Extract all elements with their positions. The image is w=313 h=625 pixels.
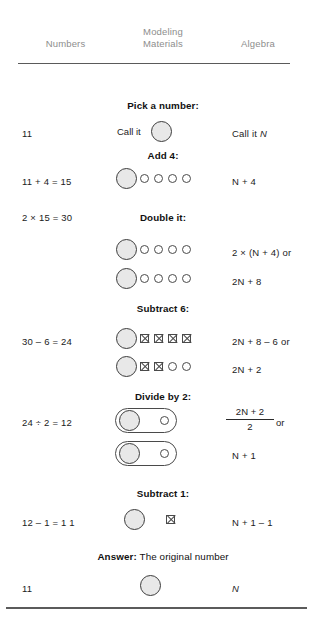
step-heading-pick-a-number: Pick a number: [68,100,258,111]
column-header-algebra: Algebra [213,38,303,50]
numbers-cell-add4: 11 + 4 = 15 [22,176,127,187]
algebra-prefix-call-it: Call it [232,128,257,139]
model-cell-subtract6-b [115,355,215,381]
numbers-cell-subtract1: 12 – 1 = 1 1 [22,517,127,528]
fraction-numerator: 2N + 2 [226,406,274,417]
fraction-bar [226,419,274,420]
model-disc-large [151,121,172,142]
answer-label: Answer: [97,551,136,562]
model-disc-large [116,356,137,377]
model-cell-answer [115,574,215,600]
numbers-cell-pick: 11 [22,128,127,139]
step-heading-subtract-6: Subtract 6: [68,303,258,314]
algebra-cell-double-b: 2N + 8 [232,276,313,287]
model-unit-crossed [166,515,175,524]
model-cell-double-a [115,238,215,264]
model-unit-crossed [182,334,191,343]
step-heading-divide-by-2: Divide by 2: [68,391,258,402]
algebra-cell-divide2-b: N + 1 [232,450,313,461]
column-header-modeling-line1: Modeling [143,26,183,37]
model-cell-subtract1 [115,508,215,534]
model-unit-open [182,362,191,371]
model-unit-crossed [140,362,149,371]
algebra-cell-subtract6-a: 2N + 8 – 6 or [232,336,313,347]
model-disc-large [116,239,137,260]
model-disc-large [116,168,137,189]
model-unit-open [154,274,163,283]
answer-text: The original number [140,551,229,562]
step-heading-add-4: Add 4: [68,150,258,161]
model-unit-open [182,245,191,254]
model-disc-large [140,575,161,596]
model-disc-large [116,268,137,289]
model-cell-subtract6-a [115,327,215,353]
algebra-variable-n: N [260,128,267,139]
algebra-cell-pick: Call it N [232,128,313,139]
model-unit-open [168,174,177,183]
header-divider-rule [18,63,290,64]
model-unit-open [168,245,177,254]
model-disc-large [119,410,140,431]
model-label-call-it: Call it [117,126,141,137]
model-unit-open [160,416,169,425]
model-unit-open [182,274,191,283]
figure-canvas: Numbers Modeling Materials Algebra Pick … [0,0,313,625]
model-unit-open [140,274,149,283]
step-heading-double-it: Double it: [68,212,258,223]
model-unit-open [182,174,191,183]
algebra-cell-double-a: 2 × (N + 4) or [232,247,313,258]
numbers-cell-subtract6: 30 – 6 = 24 [22,336,127,347]
algebra-cell-divide2-fraction: 2N + 2 2 [226,406,274,432]
model-unit-crossed [168,334,177,343]
model-unit-crossed [154,362,163,371]
model-disc-large [116,328,137,349]
algebra-divide2-or: or [276,417,284,428]
algebra-cell-answer: N [232,583,313,594]
algebra-cell-subtract1: N + 1 – 1 [232,517,313,528]
algebra-cell-subtract6-b: 2N + 2 [232,364,313,375]
model-unit-crossed [154,334,163,343]
model-cell-add4 [115,167,215,193]
model-cell-double-b [115,267,215,293]
model-disc-large [119,443,140,464]
model-unit-open [168,274,177,283]
model-unit-open [160,449,169,458]
step-heading-subtract-1: Subtract 1: [68,488,258,499]
numbers-cell-divide2: 24 ÷ 2 = 12 [22,417,127,428]
model-unit-open [154,174,163,183]
model-unit-open [168,362,177,371]
model-cell-divide2-b [115,440,215,468]
model-cell-divide2-a [115,407,215,435]
model-disc-large [124,509,145,530]
numbers-cell-answer: 11 [22,583,127,594]
column-header-modeling-materials: Modeling Materials [115,26,211,49]
model-unit-open [140,174,149,183]
column-header-numbers: Numbers [18,38,113,50]
column-header-modeling-line2: Materials [143,38,183,49]
model-unit-open [154,245,163,254]
table-header: Numbers Modeling Materials Algebra [0,26,313,60]
model-cell-pick: Call it [115,120,215,146]
algebra-cell-add4: N + 4 [232,176,313,187]
answer-line: Answer: The original number [58,551,268,562]
footer-divider-rule [6,607,307,609]
fraction-denominator: 2 [226,421,274,432]
model-unit-crossed [140,334,149,343]
model-unit-open [140,245,149,254]
